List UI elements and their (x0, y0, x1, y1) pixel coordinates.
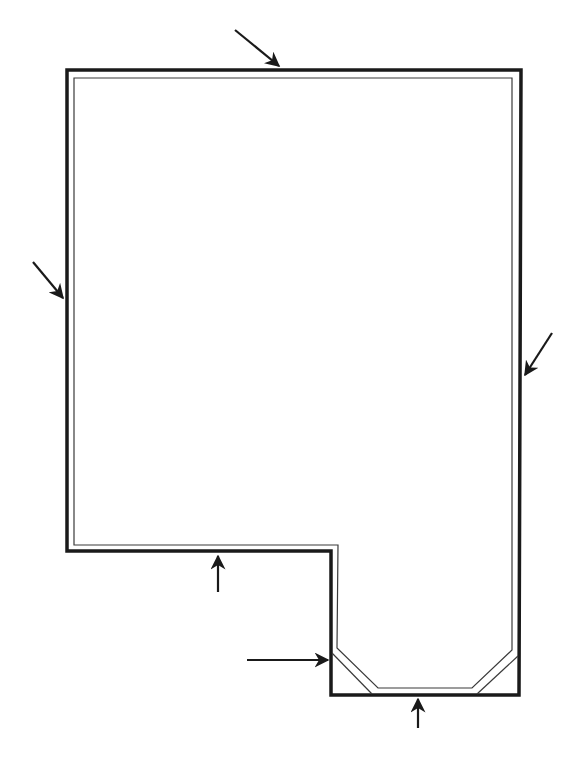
arrow-left-icon (33, 262, 63, 298)
arrow-right-icon (525, 333, 552, 375)
chamfer-line-0 (332, 653, 372, 694)
arrow-top-icon (235, 30, 279, 66)
inner-wall-line (74, 78, 512, 688)
floor-plan-diagram (0, 0, 577, 760)
chamfer-line-1 (477, 656, 518, 694)
outer-wall (67, 70, 521, 695)
